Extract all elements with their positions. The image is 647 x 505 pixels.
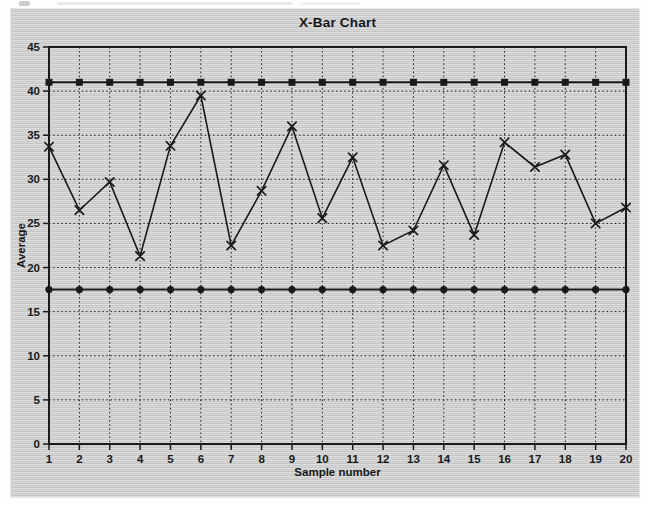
marker-upper-control-limit-sample-12	[380, 79, 387, 86]
marker-average-sample-17	[531, 163, 539, 171]
marker-lower-control-limit-sample-16	[501, 286, 508, 293]
x-tick-label-6: 6	[198, 453, 204, 465]
marker-upper-control-limit-sample-11	[349, 79, 356, 86]
x-tick-label-4: 4	[137, 453, 144, 465]
y-tick-label-5: 5	[34, 394, 41, 406]
x-tick-label-13: 13	[407, 453, 420, 465]
marker-upper-control-limit-sample-9	[288, 79, 295, 86]
marker-lower-control-limit-sample-14	[440, 286, 447, 293]
y-tick-label-35: 35	[27, 129, 40, 141]
x-tick-label-20: 20	[620, 453, 633, 465]
marker-lower-control-limit-sample-10	[319, 286, 326, 293]
marker-lower-control-limit-sample-6	[197, 286, 204, 293]
marker-upper-control-limit-sample-8	[258, 79, 265, 86]
marker-upper-control-limit-sample-17	[531, 79, 538, 86]
x-tick-label-15: 15	[468, 453, 481, 465]
caption-fragment-line	[300, 2, 360, 5]
x-tick-label-10: 10	[316, 453, 329, 465]
cropped-caption-remnant	[0, 0, 647, 7]
marker-lower-control-limit-sample-11	[349, 286, 356, 293]
marker-upper-control-limit-sample-10	[319, 79, 326, 86]
x-tick-label-16: 16	[498, 453, 511, 465]
x-tick-label-3: 3	[107, 453, 113, 465]
xbar-control-chart: 0510152025303540451234567891011121314151…	[10, 8, 640, 498]
marker-upper-control-limit-sample-2	[76, 79, 83, 86]
marker-upper-control-limit-sample-19	[592, 79, 599, 86]
y-tick-label-20: 20	[27, 262, 40, 274]
series-average-line	[49, 96, 626, 257]
marker-lower-control-limit-sample-20	[622, 286, 629, 293]
marker-upper-control-limit-sample-18	[562, 79, 569, 86]
x-tick-label-9: 9	[289, 453, 295, 465]
caption-fragment-mark	[19, 1, 30, 6]
marker-lower-control-limit-sample-8	[258, 286, 265, 293]
y-tick-label-30: 30	[27, 173, 40, 185]
marker-lower-control-limit-sample-2	[76, 286, 83, 293]
marker-upper-control-limit-sample-15	[471, 79, 478, 86]
marker-lower-control-limit-sample-9	[288, 286, 295, 293]
x-tick-label-14: 14	[437, 453, 450, 465]
marker-lower-control-limit-sample-7	[228, 286, 235, 293]
x-tick-label-12: 12	[377, 453, 390, 465]
x-tick-label-2: 2	[76, 453, 82, 465]
x-tick-label-19: 19	[589, 453, 602, 465]
marker-lower-control-limit-sample-15	[471, 286, 478, 293]
x-tick-label-8: 8	[258, 453, 265, 465]
marker-upper-control-limit-sample-6	[197, 79, 204, 86]
marker-lower-control-limit-sample-18	[562, 286, 569, 293]
x-tick-label-18: 18	[559, 453, 572, 465]
y-tick-label-0: 0	[34, 438, 40, 450]
marker-upper-control-limit-sample-13	[410, 79, 417, 86]
marker-upper-control-limit-sample-14	[440, 79, 447, 86]
y-tick-label-40: 40	[27, 85, 40, 97]
marker-lower-control-limit-sample-19	[592, 286, 599, 293]
marker-upper-control-limit-sample-5	[167, 79, 174, 86]
marker-average-sample-18	[561, 150, 569, 158]
y-tick-label-15: 15	[27, 306, 40, 318]
x-tick-label-5: 5	[167, 453, 174, 465]
y-tick-label-45: 45	[27, 41, 40, 53]
chart-panel: X-Bar Chart Average 05101520253035404512…	[10, 8, 640, 498]
marker-lower-control-limit-sample-17	[531, 286, 538, 293]
caption-fragment-line	[57, 2, 292, 5]
marker-lower-control-limit-sample-4	[137, 286, 144, 293]
marker-lower-control-limit-sample-12	[379, 286, 386, 293]
x-tick-label-11: 11	[347, 453, 360, 465]
y-tick-label-25: 25	[27, 217, 40, 229]
marker-upper-control-limit-sample-1	[46, 79, 53, 86]
x-tick-label-1: 1	[46, 453, 53, 465]
marker-upper-control-limit-sample-7	[228, 79, 235, 86]
x-tick-label-7: 7	[228, 453, 234, 465]
marker-upper-control-limit-sample-16	[501, 79, 508, 86]
marker-upper-control-limit-sample-20	[623, 79, 630, 86]
marker-upper-control-limit-sample-4	[137, 79, 144, 86]
x-axis-title: Sample number	[49, 466, 626, 478]
marker-lower-control-limit-sample-1	[45, 286, 52, 293]
marker-upper-control-limit-sample-3	[106, 79, 113, 86]
marker-lower-control-limit-sample-13	[410, 286, 417, 293]
marker-average-sample-16	[500, 138, 508, 146]
x-tick-label-17: 17	[528, 453, 541, 465]
y-tick-label-10: 10	[27, 350, 40, 362]
marker-lower-control-limit-sample-5	[167, 286, 174, 293]
marker-lower-control-limit-sample-3	[106, 286, 113, 293]
